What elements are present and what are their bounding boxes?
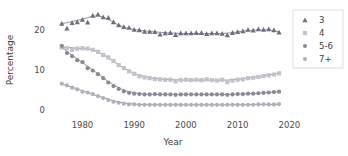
data-point-square-icon [199,78,203,82]
data-point-circle-icon [241,92,245,96]
data-point-triangle-icon [276,30,281,35]
data-point-square-icon [251,76,255,80]
data-point-circle-icon [70,54,74,58]
data-point-circle-icon [246,103,250,107]
data-point-square-icon [96,50,100,54]
data-point-circle-icon [80,90,84,94]
data-point-square-icon [230,78,234,82]
data-point-circle-icon [184,103,188,107]
data-point-circle-icon [256,102,260,106]
data-point-circle-icon [122,102,126,106]
data-point-circle-icon [163,103,167,107]
data-point-square-icon [272,72,276,76]
data-point-circle-icon [205,103,209,107]
data-point-circle-icon [111,100,115,104]
data-point-circle-icon [179,92,183,96]
data-point-circle-icon [215,103,219,107]
data-point-circle-icon [189,103,193,107]
data-point-circle-icon [137,103,141,107]
data-point-triangle-icon [95,12,100,17]
series-line-4 [62,47,279,80]
data-point-circle-icon [60,82,64,86]
data-point-square-icon [148,76,152,80]
data-point-circle-icon [117,87,121,91]
y-tick-label: 20 [34,25,45,35]
x-tick-label: 1990 [123,120,145,130]
data-point-circle-icon [86,66,90,70]
data-point-circle-icon [179,103,183,107]
data-point-circle-icon [158,92,162,96]
data-point-circle-icon [184,92,188,96]
data-point-square-icon [220,78,224,82]
data-point-square-icon [153,77,157,81]
legend-item-label: 7+ [319,54,332,64]
data-point-circle-icon [261,102,265,106]
data-point-triangle-icon [168,30,173,35]
data-point-square-icon [256,75,260,79]
data-point-circle-icon [251,103,255,107]
data-point-triangle-icon [106,15,111,20]
data-point-circle-icon [163,92,167,96]
data-point-square-icon [210,78,214,82]
data-point-triangle-icon [116,23,121,28]
data-point-square-icon [80,46,84,50]
data-point-circle-icon [137,92,141,96]
data-point-circle-icon [225,103,229,107]
data-point-circle-icon [210,103,214,107]
data-point-circle-icon [225,93,229,97]
data-point-circle-icon [194,103,198,107]
x-axis-title: Year [162,137,182,147]
x-tick-label: 2010 [227,120,249,130]
data-point-square-icon [173,79,177,83]
data-point-circle-icon [132,102,136,106]
data-point-circle-icon [236,92,240,96]
data-point-circle-icon [117,101,121,105]
data-point-triangle-icon [194,30,199,35]
data-point-circle-icon [277,102,281,106]
data-point-square-icon [261,74,265,78]
data-point-circle-icon [251,92,255,96]
data-point-circle-icon [220,103,224,107]
data-point-circle-icon [277,90,281,94]
data-point-circle-icon [148,103,152,107]
data-point-square-icon [132,72,136,76]
data-point-square-icon [75,47,79,51]
data-point-circle-icon [106,80,110,84]
data-point-square-icon [225,80,229,84]
data-point-circle-icon [241,103,245,107]
data-point-circle-icon [199,92,203,96]
legend-item-label: 5-6 [319,41,333,51]
data-point-circle-icon [127,91,131,95]
data-point-circle-icon [236,103,240,107]
data-point-circle-icon [272,90,276,94]
data-point-circle-icon [91,92,95,96]
data-point-square-icon [106,55,110,59]
y-tick-label: 0 [40,105,45,115]
data-point-circle-icon [65,51,69,55]
data-point-triangle-icon [126,25,131,30]
data-point-circle-icon [65,83,69,87]
y-axis-title: Percentage [5,34,15,85]
data-point-triangle-icon [64,26,69,31]
data-point-square-icon [158,77,162,81]
data-point-circle-icon [194,92,198,96]
data-point-triangle-icon [178,31,183,36]
data-point-circle-icon [91,68,95,72]
data-point-triangle-icon [266,27,271,32]
data-point-circle-icon [173,103,177,107]
data-point-circle-icon [96,94,100,98]
data-point-circle-icon [96,72,100,76]
data-point-circle-icon [101,96,105,100]
data-point-circle-icon [122,89,126,93]
data-point-circle-icon [168,92,172,96]
data-point-circle-icon [86,90,90,94]
data-point-circle-icon [210,92,214,96]
legend-item-label: 3 [319,15,324,25]
data-point-square-icon [127,69,131,73]
legend-box [293,10,343,68]
y-tick-label: 10 [34,65,45,75]
series-4 [60,45,282,84]
data-point-square-icon [277,71,281,75]
data-point-square-icon [86,47,90,51]
x-tick-label: 2000 [175,120,197,130]
